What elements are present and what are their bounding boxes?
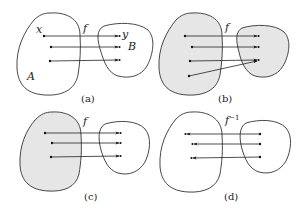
- caption-c: (c): [84, 191, 98, 202]
- preimage-point: [190, 157, 192, 159]
- set-b-blob: [99, 121, 149, 174]
- image-point: [257, 46, 259, 48]
- panel-b: f (b): [159, 13, 289, 104]
- caption-a: (a): [81, 93, 95, 104]
- function-mapping-diagram: x f y B A (a) f (b): [0, 0, 306, 212]
- element-x-label: x: [36, 23, 43, 36]
- function-f-label: f: [224, 21, 231, 34]
- set-a-blob: [20, 112, 81, 191]
- caption-d: (d): [224, 191, 238, 202]
- set-b-label: B: [127, 40, 136, 53]
- caption-b: (b): [218, 93, 232, 104]
- image-point: [257, 35, 259, 37]
- panel-d: f−1 (d): [160, 112, 291, 202]
- image-point: [118, 59, 120, 61]
- panel-c: f (c): [20, 112, 150, 202]
- function-f-label: f: [82, 22, 89, 35]
- set-b-blob: [240, 120, 290, 173]
- function-f-inverse-label: f−1: [224, 114, 239, 127]
- inverse-mapping-arrow: [193, 157, 260, 158]
- function-f-label: f: [82, 115, 89, 128]
- image-point: [118, 46, 120, 48]
- set-a-label: A: [26, 70, 35, 83]
- preimage-point: [191, 143, 193, 145]
- inverse-superscript: −1: [229, 114, 239, 122]
- set-a-blob: [160, 112, 222, 192]
- image-point: [119, 142, 121, 144]
- set-a-blob: [159, 13, 222, 95]
- image-point: [119, 132, 121, 134]
- set-b-blob: [237, 25, 289, 77]
- image-point: [257, 59, 259, 61]
- mapping-arrow: [50, 60, 118, 61]
- panel-a: x f y B A (a): [17, 13, 153, 104]
- image-point: [118, 35, 120, 37]
- preimage-point: [184, 133, 186, 135]
- image-point: [119, 155, 121, 157]
